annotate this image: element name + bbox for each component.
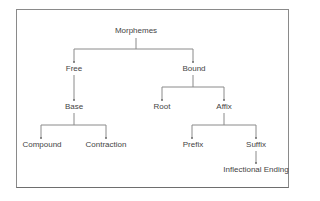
node-suffix: Suffix [246,141,266,149]
node-bound: Bound [182,65,205,73]
node-base: Base [65,103,83,111]
node-root: Root [154,103,171,111]
node-free: Free [66,65,82,73]
node-compound: Compound [22,141,61,149]
node-morphemes: Morphemes [115,27,157,35]
node-contraction: Contraction [86,141,127,149]
node-inflectional-ending: Inflectional Ending [223,166,288,174]
node-affix: Affix [216,103,231,111]
node-prefix: Prefix [183,141,203,149]
